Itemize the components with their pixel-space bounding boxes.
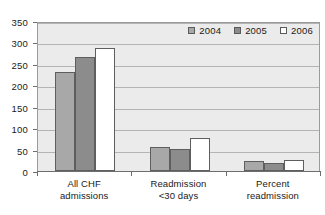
y-tick-label: 100 <box>12 125 28 134</box>
bar[interactable] <box>55 72 75 171</box>
x-tick-mark <box>226 172 227 176</box>
legend-label: 2005 <box>245 26 267 35</box>
legend-swatch-icon <box>280 27 287 34</box>
bar[interactable] <box>264 163 284 171</box>
x-tick-mark <box>320 172 321 176</box>
x-category-label-line: Readmission <box>131 178 225 190</box>
legend: 200420052006 <box>188 26 313 35</box>
bar-chart: 050100150200250300350 200420052006 All C… <box>0 0 325 215</box>
bar[interactable] <box>150 147 170 171</box>
bar-group <box>55 23 115 171</box>
x-category-label-line: <30 days <box>131 190 225 202</box>
legend-item[interactable]: 2006 <box>280 26 313 35</box>
x-category-label-line: All CHF <box>37 178 131 190</box>
legend-swatch-icon <box>188 27 195 34</box>
legend-label: 2006 <box>291 26 313 35</box>
bar-group <box>244 23 304 171</box>
bar[interactable] <box>190 138 210 171</box>
bar[interactable] <box>284 160 304 171</box>
y-tick-label: 350 <box>12 18 28 27</box>
x-category-label-line: admissions <box>37 190 131 202</box>
legend-swatch-icon <box>234 27 241 34</box>
y-tick-label: 50 <box>17 146 28 155</box>
x-category-label: Readmission<30 days <box>131 178 225 201</box>
bars-layer <box>38 23 319 171</box>
bar[interactable] <box>95 48 115 171</box>
y-tick-label: 0 <box>23 168 28 177</box>
legend-label: 2004 <box>199 26 221 35</box>
bar[interactable] <box>75 57 95 171</box>
y-tick-label: 300 <box>12 39 28 48</box>
y-tick-label: 250 <box>12 60 28 69</box>
x-category-label-line: Percent <box>226 178 320 190</box>
x-category-label: All CHFadmissions <box>37 178 131 201</box>
plot-area: 200420052006 <box>37 22 320 172</box>
bar[interactable] <box>170 149 190 171</box>
y-tick-label: 200 <box>12 82 28 91</box>
legend-item[interactable]: 2004 <box>188 26 221 35</box>
x-axis-line <box>37 171 321 172</box>
x-tick-mark <box>37 172 38 176</box>
x-tick-mark <box>131 172 132 176</box>
x-category-label: Percentreadmission <box>226 178 320 201</box>
y-tick-label: 150 <box>12 103 28 112</box>
x-category-label-line: readmission <box>226 190 320 202</box>
y-axis: 050100150200250300350 <box>0 0 33 215</box>
x-axis-labels: All CHFadmissionsReadmission<30 daysPerc… <box>37 178 320 212</box>
bar-group <box>150 23 210 171</box>
bar[interactable] <box>244 161 264 171</box>
legend-item[interactable]: 2005 <box>234 26 267 35</box>
